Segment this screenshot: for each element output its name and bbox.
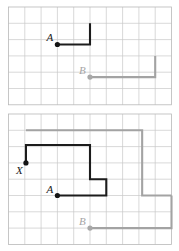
label-a: A [45, 183, 53, 195]
lattice-path-figure: ABXAB [0, 0, 179, 251]
point-a [55, 193, 60, 198]
point-b [87, 74, 92, 79]
label-x: X [15, 164, 24, 176]
label-b: B [79, 64, 86, 76]
point-x [23, 160, 28, 165]
label-b: B [79, 215, 86, 227]
point-a [55, 42, 60, 47]
label-a: A [45, 31, 53, 43]
point-b [87, 226, 92, 231]
